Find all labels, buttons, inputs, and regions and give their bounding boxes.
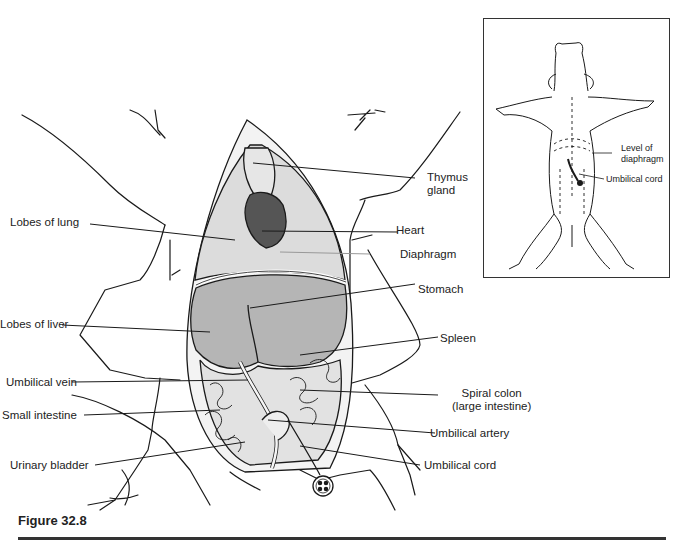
label-umbilical-artery: Umbilical artery	[430, 427, 509, 440]
figure-canvas: Lobes of lung Lobes of liver Umbilical v…	[0, 0, 683, 544]
label-urinary-bladder: Urinary bladder	[10, 459, 89, 472]
label-umbilical-cord: Umbilical cord	[424, 459, 496, 472]
figure-caption: Figure 32.8	[18, 513, 87, 528]
label-spiral-colon: Spiral colon (large intestine)	[452, 387, 531, 413]
caption-divider	[18, 537, 666, 540]
inset-label-umbilical-cord: Umbilical cord	[606, 174, 663, 185]
label-umbilical-vein: Umbilical vein	[6, 376, 77, 389]
label-lobes-of-lung: Lobes of lung	[10, 216, 79, 229]
label-heart: Heart	[396, 224, 424, 237]
inset-whole-pig-view: Level of diaphragm Umbilical cord	[483, 18, 670, 278]
inset-label-level-of-diaphragm: Level of diaphragm	[621, 143, 664, 165]
label-stomach: Stomach	[418, 283, 463, 296]
label-small-intestine: Small intestine	[2, 409, 77, 422]
label-diaphragm: Diaphragm	[400, 248, 456, 261]
label-spleen: Spleen	[440, 332, 476, 345]
label-thymus-gland: Thymus gland	[427, 171, 468, 197]
label-lobes-of-liver: Lobes of liver	[0, 318, 68, 331]
